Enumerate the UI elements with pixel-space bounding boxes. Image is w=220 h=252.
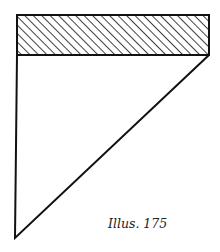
triangle: [15, 55, 209, 238]
hatched-rectangle: [17, 15, 209, 55]
illustration-figure: [0, 0, 220, 252]
figure-caption: Illus. 175: [108, 216, 167, 231]
